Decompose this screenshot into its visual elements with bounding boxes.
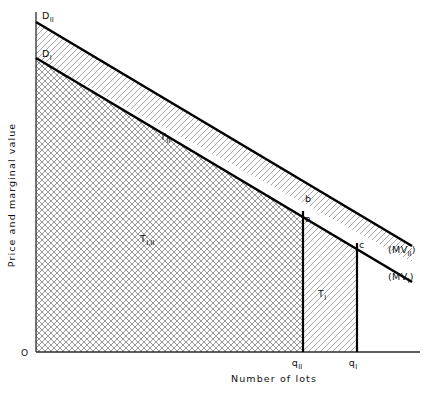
label-q-two: qII (292, 357, 302, 371)
label-q-one: qI (349, 357, 357, 371)
label-d-two: DII (42, 10, 54, 24)
y-axis-title: Price and marginal value (6, 123, 17, 267)
label-origin: O (21, 348, 28, 358)
region-t-one (303, 218, 357, 352)
label-point-c: c (359, 239, 365, 250)
label-point-b: b (305, 193, 311, 204)
economics-figure: DII DI TII TI,II TI b a c (MVII) (MVI) q… (0, 0, 436, 394)
chart-canvas: DII DI TII TI,II TI b a c (MVII) (MVI) q… (0, 0, 436, 394)
label-point-a: a (305, 213, 311, 224)
x-axis-title: Number of lots (231, 373, 317, 384)
label-mv-one: (MVI) (388, 271, 414, 285)
